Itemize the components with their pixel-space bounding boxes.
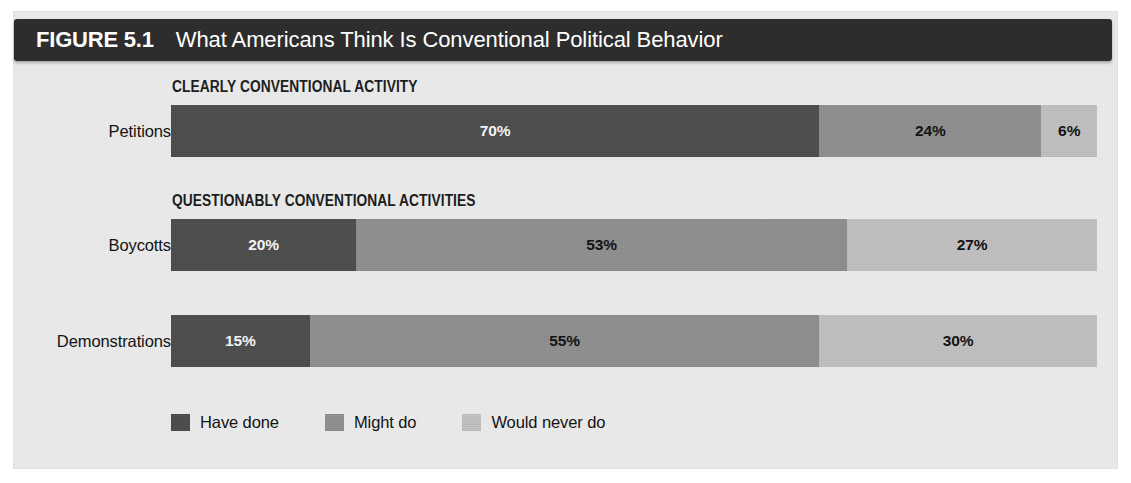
bar-segment-value: 20% xyxy=(248,236,279,254)
bar-segment-value: 55% xyxy=(549,332,580,350)
chart-row-petitions: Petitions 70% 24% 6% xyxy=(14,105,1117,157)
bar-segment-would-never-do: 6% xyxy=(1041,105,1097,157)
bar-segment-value: 27% xyxy=(957,236,988,254)
legend-label: Would never do xyxy=(491,413,605,432)
bar-segment-value: 15% xyxy=(225,332,256,350)
bar-segment-value: 6% xyxy=(1058,122,1080,140)
chart-row-demonstrations: Demonstrations 15% 55% 30% xyxy=(14,315,1117,367)
bar-segment-value: 70% xyxy=(480,122,511,140)
bar-segment-might-do: 55% xyxy=(310,315,819,367)
stacked-bar-chart: CLEARLY CONVENTIONAL ACTIVITY QUESTIONAB… xyxy=(14,61,1117,468)
bar-segment-have-done: 20% xyxy=(171,219,356,271)
chart-row-boycotts: Boycotts 20% 53% 27% xyxy=(14,219,1117,271)
figure-title: What Americans Think Is Conventional Pol… xyxy=(154,27,723,53)
bar-segment-might-do: 24% xyxy=(819,105,1041,157)
legend-label: Might do xyxy=(354,413,417,432)
bar-segment-would-never-do: 27% xyxy=(847,219,1097,271)
chart-legend: Have done Might do Would never do xyxy=(171,409,605,435)
legend-label: Have done xyxy=(200,413,279,432)
bar-segment-have-done: 70% xyxy=(171,105,819,157)
bar-segment-value: 53% xyxy=(586,236,617,254)
row-label-boycotts: Boycotts xyxy=(109,219,171,271)
row-label-demonstrations: Demonstrations xyxy=(57,315,171,367)
figure-page: FIGURE 5.1 What Americans Think Is Conve… xyxy=(0,0,1131,483)
legend-swatch-might-do xyxy=(325,414,344,431)
legend-item-would-never-do: Would never do xyxy=(462,413,605,432)
legend-item-have-done: Have done xyxy=(171,413,279,432)
figure-title-bar: FIGURE 5.1 What Americans Think Is Conve… xyxy=(14,19,1112,61)
stacked-bar-boycotts: 20% 53% 27% xyxy=(171,219,1097,271)
bar-segment-value: 24% xyxy=(915,122,946,140)
figure-number-label: FIGURE 5.1 xyxy=(14,27,154,53)
bar-segment-have-done: 15% xyxy=(171,315,310,367)
legend-swatch-would-never-do xyxy=(462,414,481,431)
section-heading-clearly-conventional: CLEARLY CONVENTIONAL ACTIVITY xyxy=(172,78,418,96)
legend-swatch-have-done xyxy=(171,414,190,431)
bar-segment-might-do: 53% xyxy=(356,219,847,271)
legend-item-might-do: Might do xyxy=(325,413,417,432)
bar-segment-would-never-do: 30% xyxy=(819,315,1097,367)
stacked-bar-demonstrations: 15% 55% 30% xyxy=(171,315,1097,367)
row-label-petitions: Petitions xyxy=(109,105,171,157)
stacked-bar-petitions: 70% 24% 6% xyxy=(171,105,1097,157)
section-heading-questionably-conventional: QUESTIONABLY CONVENTIONAL ACTIVITIES xyxy=(172,192,476,210)
bar-segment-value: 30% xyxy=(943,332,974,350)
